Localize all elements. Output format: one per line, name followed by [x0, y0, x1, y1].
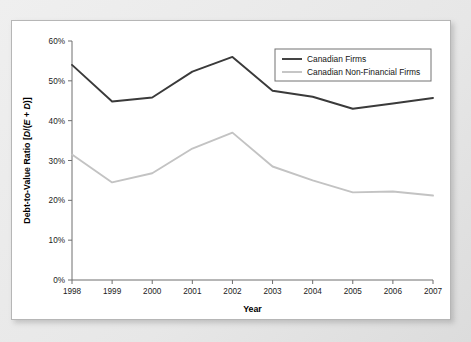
y-tick-label: 30%	[49, 157, 65, 166]
y-tick-label: 10%	[49, 236, 65, 245]
x-tick-label: 2004	[304, 287, 323, 296]
y-axis-title: Debt-to-Value Ratio [D/(E + D)]	[22, 97, 32, 223]
x-tick-label: 1998	[63, 287, 82, 296]
y-tick-label: 60%	[49, 37, 65, 46]
legend-label-1: Canadian Firms	[307, 54, 366, 64]
y-tick-label: 20%	[49, 196, 65, 205]
y-tick-label: 50%	[49, 77, 65, 86]
x-tick-label: 2003	[263, 287, 282, 296]
x-axis-title: Year	[243, 304, 262, 314]
x-tick-label: 2007	[424, 287, 443, 296]
y-tick-label: 0%	[53, 276, 65, 285]
x-tick-label: 2000	[143, 287, 162, 296]
line-chart: 0%10%20%30%40%50%60%19981999200020012002…	[12, 21, 450, 319]
series-line-2	[72, 133, 433, 196]
legend-label-2: Canadian Non-Financial Firms	[307, 67, 420, 77]
x-tick-label: 2005	[344, 287, 363, 296]
chart-panel: 0%10%20%30%40%50%60%19981999200020012002…	[11, 20, 451, 320]
x-tick-label: 1999	[103, 287, 122, 296]
x-tick-label: 2001	[183, 287, 202, 296]
figure-background: 0%10%20%30%40%50%60%19981999200020012002…	[0, 0, 471, 342]
x-tick-label: 2006	[384, 287, 403, 296]
y-tick-label: 40%	[49, 117, 65, 126]
x-tick-label: 2002	[223, 287, 242, 296]
